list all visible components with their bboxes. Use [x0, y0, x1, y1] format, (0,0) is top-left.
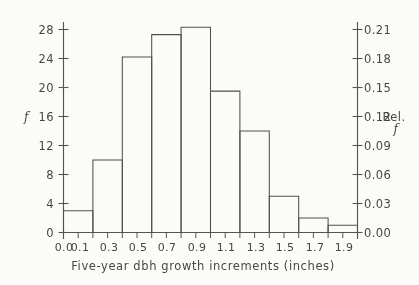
- y2-tick-label-003: 0.03: [364, 197, 391, 211]
- x-tick-label-0p5: 0.5: [129, 241, 148, 254]
- histogram-figure: 0 4 8 12 16 20 24 28 f 0.00 0.03 0.06 0.…: [0, 0, 419, 285]
- y2-tick-label-021: 0.21: [364, 23, 391, 37]
- x-tick-label-1p9: 1.9: [335, 241, 354, 254]
- y-tick-label-8: 8: [46, 168, 54, 182]
- x-axis: 0.0 0.1 0.3 0.5 0.7 0.9 1.1 1.3 1.5 1.7 …: [55, 233, 358, 274]
- y-tick-label-24: 24: [39, 52, 54, 66]
- y-tick-label-0: 0: [46, 226, 54, 240]
- y-tick-label-12: 12: [39, 139, 54, 153]
- x-tick-label-1p1: 1.1: [217, 241, 236, 254]
- bar-bin-1: [64, 211, 93, 233]
- y-axis-left-title: f: [23, 110, 31, 124]
- bar-bin-2: [93, 160, 122, 233]
- x-tick-label-1p3: 1.3: [247, 241, 266, 254]
- y2-tick-label-015: 0.15: [364, 81, 391, 95]
- y2-tick-label-009: 0.09: [364, 139, 391, 153]
- y-tick-label-4: 4: [46, 197, 54, 211]
- y-tick-label-28: 28: [39, 23, 54, 37]
- y-tick-label-16: 16: [39, 110, 54, 124]
- bar-bin-10: [328, 225, 357, 232]
- x-tick-label-1p7: 1.7: [306, 241, 325, 254]
- bar-bin-9: [299, 218, 328, 233]
- y2-tick-label-000: 0.00: [364, 226, 391, 240]
- bar-bin-7: [240, 131, 269, 233]
- y-axis-left: 0 4 8 12 16 20 24 28 f: [23, 22, 69, 240]
- y2-tick-label-006: 0.06: [364, 168, 391, 182]
- bar-bin-4: [152, 35, 181, 233]
- x-tick-label-0p1: 0.1: [71, 241, 90, 254]
- y-axis-right-title-line2: f: [393, 122, 401, 136]
- x-tick-label-0p3: 0.3: [100, 241, 119, 254]
- x-tick-label-0p7: 0.7: [158, 241, 177, 254]
- y2-tick-label-018: 0.18: [364, 52, 391, 66]
- bar-bin-8: [269, 196, 298, 232]
- y-axis-right: 0.00 0.03 0.06 0.09 0.12 0.15 0.18 0.21 …: [353, 22, 406, 240]
- bar-bin-5: [181, 27, 210, 232]
- x-tick-label-0p9: 0.9: [188, 241, 207, 254]
- histogram-svg: 0 4 8 12 16 20 24 28 f 0.00 0.03 0.06 0.…: [0, 0, 419, 285]
- y-tick-label-20: 20: [39, 81, 54, 95]
- bar-bin-3: [122, 57, 151, 233]
- bar-bin-6: [211, 91, 240, 232]
- x-axis-title: Five-year dbh growth increments (inches): [71, 259, 335, 273]
- histogram-bars: [64, 27, 358, 232]
- x-tick-label-1p5: 1.5: [276, 241, 295, 254]
